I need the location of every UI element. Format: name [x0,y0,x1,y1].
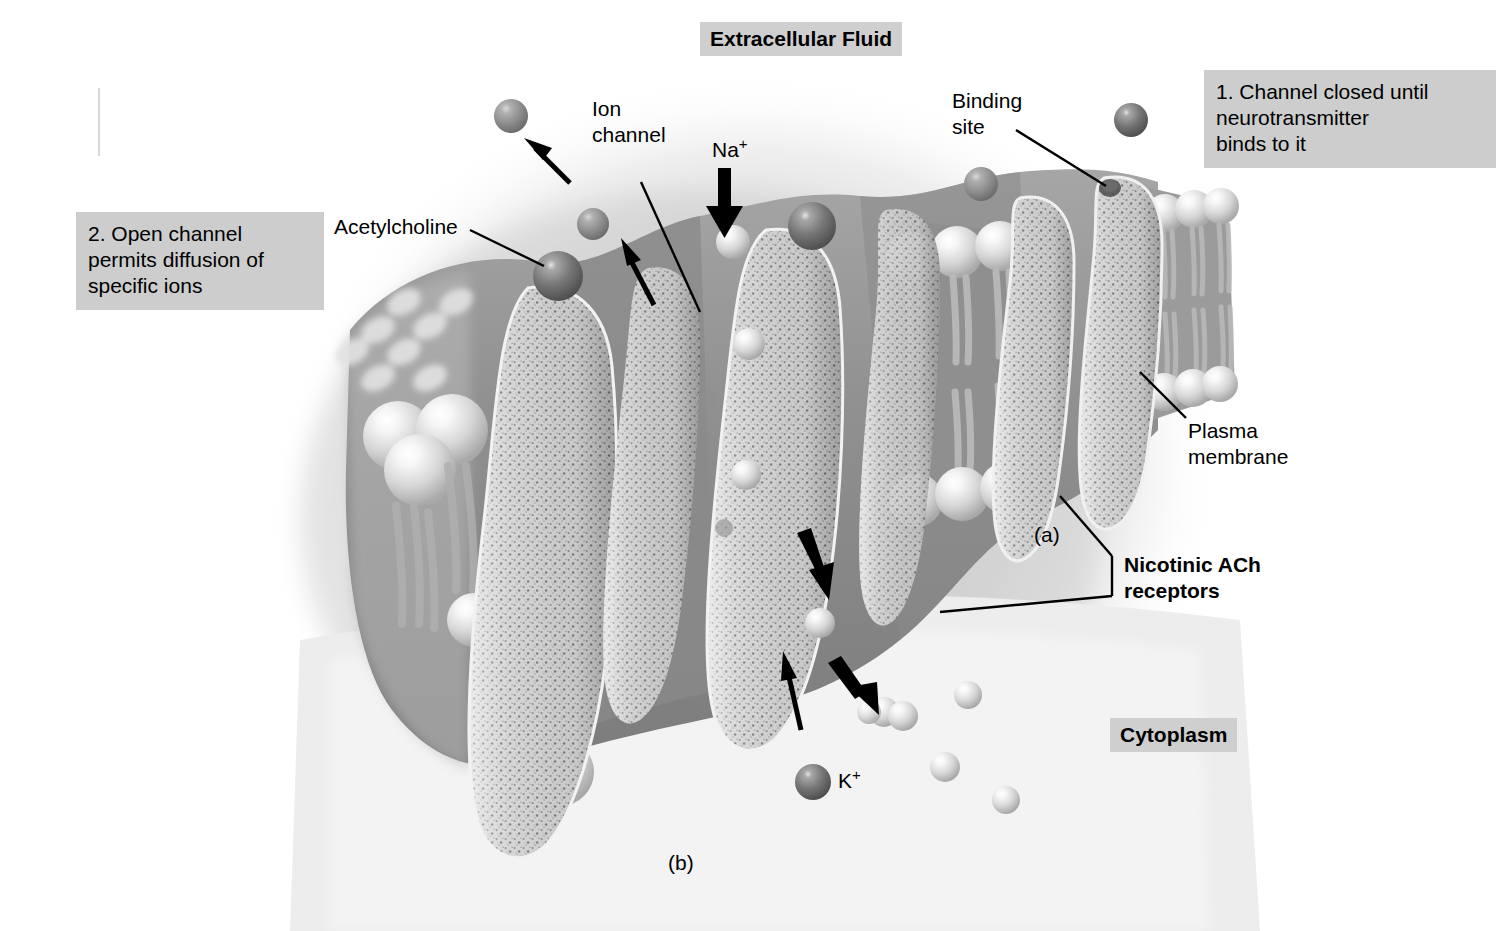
extracellular-fluid-title: Extracellular Fluid [700,22,902,56]
nicotinic-ach-receptors-label: Nicotinic ACh receptors [1124,552,1261,604]
step-2-callout: 2. Open channel permits diffusion of spe… [76,212,324,310]
potassium-ion-symbol: K [838,769,852,792]
plasma-membrane-label: Plasma membrane [1188,418,1288,470]
sodium-ion-label: Na+ [712,137,748,163]
binding-site-label: Binding site [952,88,1022,140]
panel-b-label: (b) [668,850,694,876]
potassium-ion-label: K+ [838,768,861,794]
sodium-ion-charge: + [739,135,748,152]
step-1-callout: 1. Channel closed until neurotransmitter… [1204,70,1496,168]
panel-a-label: (a) [1034,522,1060,548]
acetylcholine-label: Acetylcholine [334,214,458,240]
cytoplasm-title: Cytoplasm [1110,718,1237,752]
potassium-ion-charge: + [852,766,861,783]
sodium-ion-symbol: Na [712,138,739,161]
ion-channel-label: Ion channel [592,96,666,148]
scan-artifact [98,88,100,156]
